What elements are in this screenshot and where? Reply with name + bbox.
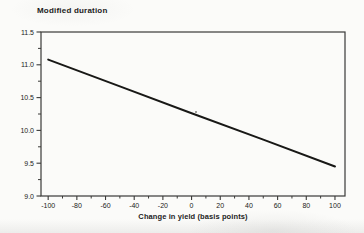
chart-figure: Modified duration -100-80-60-40-20020406… [0, 0, 364, 233]
x-axis-tick-label: -40 [129, 202, 139, 209]
x-axis-tick-label: -100 [41, 202, 55, 209]
y-axis-tick-label: 9.5 [24, 160, 34, 167]
x-axis-tick-label: -60 [100, 202, 110, 209]
x-axis-tick-label: -80 [72, 202, 82, 209]
x-axis-title: Change in yield (basis points) [41, 212, 345, 221]
x-axis-tick-label: 100 [329, 202, 341, 209]
plot-area: -100-80-60-40-200204060801009.09.510.010… [0, 0, 364, 233]
x-axis-tick-label: 60 [274, 202, 282, 209]
x-axis-tick-label: 80 [302, 202, 310, 209]
y-axis-tick-label: 10.0 [20, 127, 34, 134]
x-axis-tick-label: 0 [190, 202, 194, 209]
x-axis-tick-label: 20 [216, 202, 224, 209]
x-axis-tick-label: -20 [158, 202, 168, 209]
y-axis-tick-label: 9.0 [24, 193, 34, 200]
y-axis-tick-label: 11.0 [21, 61, 34, 68]
x-axis-tick-label: 40 [245, 202, 253, 209]
y-axis-tick-label: 11.5 [21, 29, 34, 36]
duration-line [48, 60, 335, 167]
scan-speck-artifact [195, 111, 197, 113]
y-axis-tick-label: 10.5 [20, 94, 34, 101]
